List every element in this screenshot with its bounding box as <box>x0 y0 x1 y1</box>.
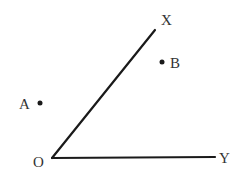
angle-diagram: X Y O A B <box>0 0 235 187</box>
label-b: B <box>170 55 180 71</box>
ray-ox <box>52 30 155 158</box>
point-b <box>160 60 165 65</box>
label-a: A <box>19 96 30 112</box>
ray-oy <box>52 157 215 158</box>
label-o: O <box>33 154 44 170</box>
label-y: Y <box>219 150 230 166</box>
label-x: X <box>161 12 172 28</box>
point-a <box>38 101 43 106</box>
